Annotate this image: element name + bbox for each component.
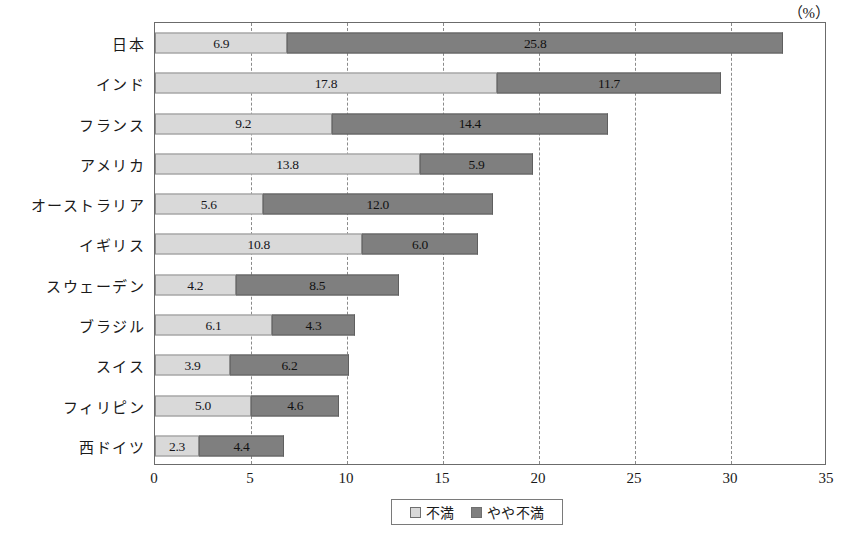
bar-value-label: 14.4 xyxy=(459,117,481,131)
stacked-bar[interactable]: 5.04.6 xyxy=(155,395,339,416)
bar-value-label: 5.0 xyxy=(195,399,211,413)
x-tick-label-35: 35 xyxy=(819,470,834,487)
x-tick-label-25: 25 xyxy=(627,470,642,487)
bar-value-label: 9.2 xyxy=(235,117,251,131)
bar-row: スイス3.96.2 xyxy=(155,345,825,385)
category-label: スイス xyxy=(96,355,146,376)
bar-value-label: 3.9 xyxy=(184,359,200,373)
stacked-bar[interactable]: 9.214.4 xyxy=(155,113,608,134)
category-label: フランス xyxy=(79,113,145,134)
bar-segment-somewhat-dissatisfied[interactable]: 6.0 xyxy=(362,234,477,255)
bar-segment-somewhat-dissatisfied[interactable]: 4.4 xyxy=(199,435,283,456)
x-tick-label-0: 0 xyxy=(150,470,158,487)
bar-segment-dissatisfied[interactable]: 10.8 xyxy=(155,234,362,255)
x-axis: 05101520253035 xyxy=(154,466,826,488)
bar-segment-dissatisfied[interactable]: 9.2 xyxy=(155,113,332,134)
bar-segment-dissatisfied[interactable]: 13.8 xyxy=(155,153,420,174)
bar-value-label: 5.9 xyxy=(469,157,485,171)
bar-segment-dissatisfied[interactable]: 3.9 xyxy=(155,355,230,376)
stacked-bar[interactable]: 17.811.7 xyxy=(155,73,721,94)
x-tick-label-30: 30 xyxy=(723,470,738,487)
bar-segment-somewhat-dissatisfied[interactable]: 6.2 xyxy=(230,355,349,376)
legend-item-dissatisfied[interactable]: 不満 xyxy=(410,502,455,522)
bar-value-label: 6.9 xyxy=(213,36,229,50)
category-label: アメリカ xyxy=(80,153,145,174)
x-tick-label-20: 20 xyxy=(531,470,546,487)
bar-segment-dissatisfied[interactable]: 17.8 xyxy=(155,73,497,94)
bar-row: イギリス10.86.0 xyxy=(155,224,825,264)
bar-segment-somewhat-dissatisfied[interactable]: 8.5 xyxy=(236,274,399,295)
bar-segment-dissatisfied[interactable]: 4.2 xyxy=(155,274,236,295)
bar-value-label: 13.8 xyxy=(276,157,298,171)
plot-area: 日本6.925.8インド17.811.7フランス9.214.4アメリカ13.85… xyxy=(154,22,826,465)
category-label: オーストラリア xyxy=(31,194,146,215)
stacked-bar[interactable]: 4.28.5 xyxy=(155,274,399,295)
x-tick-label-5: 5 xyxy=(246,470,254,487)
bar-value-label: 6.2 xyxy=(281,359,297,373)
unit-label: （%） xyxy=(788,1,831,22)
stacked-bar[interactable]: 2.34.4 xyxy=(155,435,284,456)
x-tick-label-15: 15 xyxy=(435,470,450,487)
category-label: フィリピン xyxy=(63,395,146,416)
bar-segment-dissatisfied[interactable]: 6.1 xyxy=(155,315,272,336)
bar-value-label: 6.0 xyxy=(412,238,428,252)
bar-value-label: 4.3 xyxy=(305,318,321,332)
bar-value-label: 10.8 xyxy=(247,238,269,252)
bar-segment-somewhat-dissatisfied[interactable]: 14.4 xyxy=(332,113,608,134)
bar-row: インド17.811.7 xyxy=(155,63,825,103)
bar-segment-somewhat-dissatisfied[interactable]: 25.8 xyxy=(287,33,782,54)
stacked-bar[interactable]: 3.96.2 xyxy=(155,355,349,376)
bar-row: スウェーデン4.28.5 xyxy=(155,265,825,305)
category-label: ブラジル xyxy=(79,315,145,336)
bar-value-label: 17.8 xyxy=(315,77,337,91)
bar-segment-dissatisfied[interactable]: 5.6 xyxy=(155,194,263,215)
bar-row: フィリピン5.04.6 xyxy=(155,385,825,425)
bar-value-label: 11.7 xyxy=(598,77,620,91)
bar-segment-somewhat-dissatisfied[interactable]: 12.0 xyxy=(263,194,493,215)
legend-label-somewhat-dissatisfied: やや不満 xyxy=(487,502,545,522)
bar-value-label: 4.2 xyxy=(187,278,203,292)
bar-value-label: 8.5 xyxy=(309,278,325,292)
stacked-bar[interactable]: 6.925.8 xyxy=(155,33,783,54)
bar-row: 西ドイツ2.34.4 xyxy=(155,426,825,466)
bar-value-label: 4.6 xyxy=(287,399,303,413)
x-tick-label-10: 10 xyxy=(339,470,354,487)
bar-row: ブラジル6.14.3 xyxy=(155,305,825,345)
bar-value-label: 12.0 xyxy=(366,197,388,211)
stacked-bar[interactable]: 10.86.0 xyxy=(155,234,478,255)
stacked-bar[interactable]: 5.612.0 xyxy=(155,194,493,215)
bar-row: アメリカ13.85.9 xyxy=(155,144,825,184)
bar-segment-somewhat-dissatisfied[interactable]: 4.6 xyxy=(251,395,339,416)
category-label: 日本 xyxy=(112,33,145,54)
stacked-bar[interactable]: 6.14.3 xyxy=(155,315,355,336)
legend-label-dissatisfied: 不満 xyxy=(426,502,455,522)
bar-value-label: 5.6 xyxy=(201,197,217,211)
legend-swatch-icon-somewhat-dissatisfied xyxy=(471,507,482,518)
category-label: 西ドイツ xyxy=(79,435,145,456)
category-label: イギリス xyxy=(79,234,145,255)
category-label: スウェーデン xyxy=(46,274,145,295)
legend-item-somewhat-dissatisfied[interactable]: やや不満 xyxy=(471,502,545,522)
bar-row: 日本6.925.8 xyxy=(155,23,825,63)
bar-row: オーストラリア5.612.0 xyxy=(155,184,825,224)
bar-value-label: 4.4 xyxy=(233,439,249,453)
chart-legend: 不満 やや不満 xyxy=(391,499,563,525)
bar-value-label: 2.3 xyxy=(169,439,185,453)
bar-value-label: 6.1 xyxy=(206,318,222,332)
stacked-bar[interactable]: 13.85.9 xyxy=(155,153,533,174)
bar-segment-dissatisfied[interactable]: 2.3 xyxy=(155,435,199,456)
bar-segment-somewhat-dissatisfied[interactable]: 5.9 xyxy=(420,153,533,174)
bar-row: フランス9.214.4 xyxy=(155,104,825,144)
bar-segment-dissatisfied[interactable]: 5.0 xyxy=(155,395,251,416)
category-label: インド xyxy=(96,73,146,94)
bar-segment-somewhat-dissatisfied[interactable]: 11.7 xyxy=(497,73,722,94)
bar-segment-dissatisfied[interactable]: 6.9 xyxy=(155,33,287,54)
bar-value-label: 25.8 xyxy=(524,36,546,50)
legend-swatch-icon-dissatisfied xyxy=(410,507,421,518)
stacked-bar-chart: （%） 日本6.925.8インド17.811.7フランス9.214.4アメリカ1… xyxy=(0,0,844,549)
bar-segment-somewhat-dissatisfied[interactable]: 4.3 xyxy=(272,315,355,336)
bar-rows: 日本6.925.8インド17.811.7フランス9.214.4アメリカ13.85… xyxy=(155,23,825,464)
